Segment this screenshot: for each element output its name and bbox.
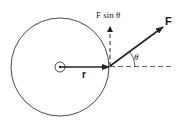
force-label: F	[165, 15, 172, 27]
axis-dot	[59, 66, 61, 68]
angle-label: θ	[134, 52, 139, 62]
torque-diagram: r F θ F sin θ	[0, 0, 183, 124]
radius-label: r	[82, 69, 86, 80]
component-label: F sin θ	[96, 10, 120, 20]
